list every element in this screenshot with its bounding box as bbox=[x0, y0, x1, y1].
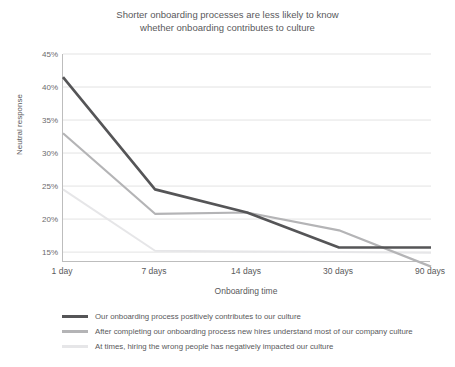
y-axis-tick: 40% bbox=[24, 83, 58, 92]
x-axis-label: Onboarding time bbox=[62, 286, 430, 296]
plot-svg bbox=[63, 54, 431, 262]
x-axis-tick: 14 days bbox=[231, 266, 261, 276]
x-axis-ticks: 1 day7 days14 days30 days90 days bbox=[62, 266, 430, 280]
x-axis-tick: 7 days bbox=[141, 266, 166, 276]
y-axis-ticks: 45%40%35%30%25%20%15% bbox=[22, 54, 58, 262]
legend-label: After completing our onboarding process … bbox=[95, 327, 413, 336]
x-axis-tick: 1 day bbox=[52, 266, 73, 276]
y-axis-tick: 35% bbox=[24, 116, 58, 125]
legend-item[interactable]: At times, hiring the wrong people has ne… bbox=[62, 339, 452, 354]
legend-swatch bbox=[62, 315, 88, 319]
legend-label: At times, hiring the wrong people has ne… bbox=[95, 342, 333, 351]
x-axis-tick: 90 days bbox=[415, 266, 445, 276]
legend-label: Our onboarding process positively contri… bbox=[95, 312, 301, 321]
chart-figure: Shorter onboarding processes are less li… bbox=[0, 0, 455, 367]
y-axis-tick: 25% bbox=[24, 182, 58, 191]
legend-swatch bbox=[62, 330, 88, 333]
y-axis-tick: 15% bbox=[24, 248, 58, 257]
legend-swatch bbox=[62, 345, 88, 348]
legend-item[interactable]: After completing our onboarding process … bbox=[62, 324, 452, 339]
y-axis-tick: 30% bbox=[24, 149, 58, 158]
chart-legend: Our onboarding process positively contri… bbox=[62, 309, 452, 354]
legend-item[interactable]: Our onboarding process positively contri… bbox=[62, 309, 452, 324]
x-axis-tick: 30 days bbox=[323, 266, 353, 276]
y-axis-tick: 20% bbox=[24, 215, 58, 224]
chart-title: Shorter onboarding processes are less li… bbox=[0, 8, 455, 34]
plot-area bbox=[62, 54, 430, 262]
series-line bbox=[63, 189, 431, 252]
y-axis-tick: 45% bbox=[24, 50, 58, 59]
series-line bbox=[63, 77, 431, 247]
